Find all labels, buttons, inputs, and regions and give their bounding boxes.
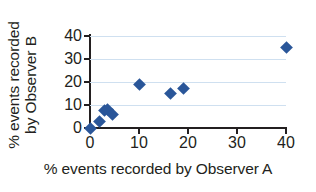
y-axis-tick bbox=[84, 35, 89, 37]
y-axis-tick-label: 30 bbox=[48, 50, 82, 68]
x-axis-tick-label: 40 bbox=[266, 134, 306, 152]
gridline-y bbox=[90, 82, 286, 83]
scatter-chart: % events recorded by Observer B 01020304… bbox=[0, 0, 316, 192]
x-axis-tick bbox=[285, 129, 287, 134]
y-axis-tick bbox=[84, 81, 89, 83]
gridline-y bbox=[90, 105, 286, 106]
gridline-y bbox=[90, 59, 286, 60]
x-axis-tick-label: 20 bbox=[168, 134, 208, 152]
y-axis-tick bbox=[84, 104, 89, 106]
x-axis-tick-label: 0 bbox=[70, 134, 110, 152]
x-axis-tick-label: 30 bbox=[217, 134, 257, 152]
x-axis-label: % events recorded by Observer A bbox=[0, 160, 316, 178]
y-axis-tick-label: 40 bbox=[48, 27, 82, 45]
gridline-y bbox=[90, 36, 286, 37]
x-axis-tick bbox=[236, 129, 238, 134]
y-axis-tick bbox=[84, 58, 89, 60]
y-axis-tick-label: 20 bbox=[48, 73, 82, 91]
y-axis-label-line-2: by Observer B bbox=[23, 21, 40, 149]
x-axis-tick bbox=[138, 129, 140, 134]
plot-area bbox=[90, 36, 286, 128]
y-axis-label-line-1: % events recorded bbox=[6, 21, 23, 149]
x-axis-tick-label: 10 bbox=[119, 134, 159, 152]
x-axis-tick bbox=[187, 129, 189, 134]
y-axis-label: % events recorded by Observer B bbox=[0, 0, 46, 170]
y-axis-tick-label: 10 bbox=[48, 96, 82, 114]
